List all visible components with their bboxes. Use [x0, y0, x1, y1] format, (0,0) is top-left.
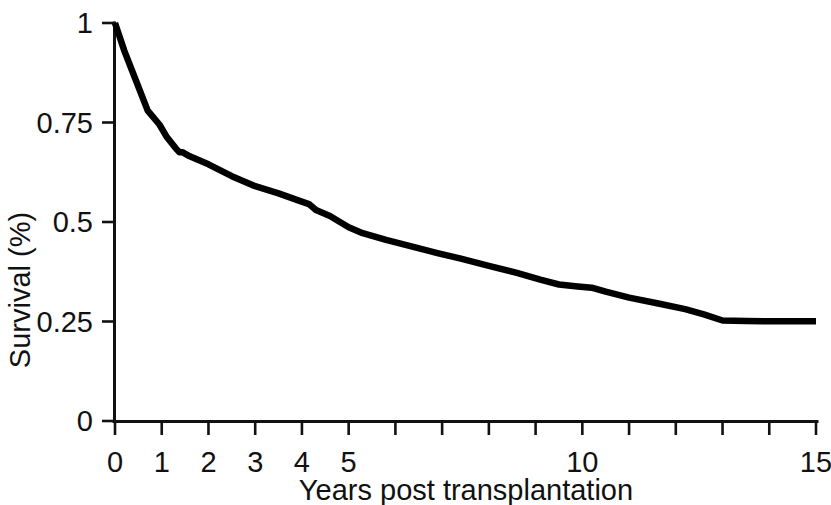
- x-axis-ticks: 0123451015: [107, 421, 831, 478]
- y-tick-label: 0.75: [37, 107, 93, 139]
- x-tick-label: 15: [800, 446, 831, 478]
- y-tick-label: 0.5: [53, 206, 93, 238]
- chart-canvas: Survival (%) Years post transplantation …: [0, 0, 831, 505]
- x-axis-title: Years post transplantation: [299, 474, 633, 505]
- x-tick-label: 10: [566, 446, 598, 478]
- x-tick-label: 5: [341, 446, 357, 478]
- y-tick-label: 1: [77, 7, 93, 39]
- y-tick-label: 0.25: [37, 306, 93, 338]
- survival-chart: Survival (%) Years post transplantation …: [0, 0, 831, 505]
- x-tick-label: 0: [107, 446, 123, 478]
- y-tick-label: 0: [77, 405, 93, 437]
- x-tick-label: 2: [200, 446, 216, 478]
- x-tick-label: 4: [294, 446, 310, 478]
- y-axis-ticks: 00.250.50.751: [37, 7, 115, 437]
- x-tick-label: 3: [247, 446, 263, 478]
- y-axis-title: Survival (%): [4, 212, 36, 368]
- x-tick-label: 1: [154, 446, 170, 478]
- survival-curve: [115, 23, 816, 321]
